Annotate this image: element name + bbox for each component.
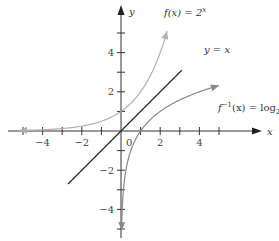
y-axis-arrow [118, 5, 125, 15]
series-line-0 [19, 31, 167, 130]
series-arrow-end-0 [161, 31, 168, 40]
x-tick-label: −4 [35, 137, 50, 148]
origin-label: 0 [126, 137, 132, 148]
y-tick-label: 4 [108, 47, 114, 58]
x-tick-label: −2 [74, 137, 89, 148]
y-axis-label: y [128, 6, 135, 17]
y-tick-label: −2 [99, 165, 114, 176]
axes [8, 5, 262, 238]
y-tick-label: 2 [108, 86, 114, 97]
series-label-log: f−1(x) = log2x [217, 101, 279, 116]
series-line-2 [122, 85, 219, 230]
x-tick-label: 2 [157, 137, 163, 148]
y-tick-label: −4 [99, 204, 114, 215]
series-line-1 [68, 70, 182, 184]
x-tick-label: 4 [196, 137, 202, 148]
series-label-identity: y = x [203, 44, 230, 55]
series-label-exp: f(x) = 2x [163, 6, 206, 18]
x-axis-label: x [267, 126, 273, 137]
function-graph: −4−22442−2−40xyf(x) = 2xy = xf−1(x) = lo… [0, 0, 279, 241]
labels: −4−22442−2−40xyf(x) = 2xy = xf−1(x) = lo… [35, 6, 279, 215]
x-axis-arrow [252, 128, 262, 135]
series-arrow-end-2 [210, 84, 219, 91]
